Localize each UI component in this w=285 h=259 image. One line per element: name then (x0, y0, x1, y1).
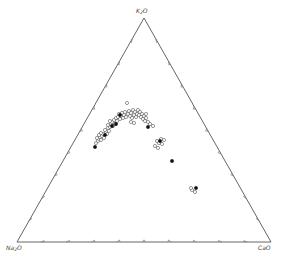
data-point-open (129, 120, 132, 123)
data-point-open (193, 190, 196, 193)
data-point-open (103, 128, 106, 131)
data-point-open (125, 101, 128, 104)
data-point-filled (110, 124, 113, 127)
data-point-open (148, 122, 151, 125)
data-point-open (106, 123, 109, 126)
data-point-open (153, 144, 156, 147)
data-point-open (151, 124, 154, 127)
data-point-open (129, 111, 132, 114)
apex-label-cao: CaO (258, 245, 271, 253)
data-point-open (144, 116, 147, 119)
data-point-filled (93, 145, 96, 148)
axis-ticks (29, 39, 259, 242)
data-points (93, 101, 197, 193)
data-point-open (124, 115, 127, 118)
data-point-filled (170, 159, 173, 162)
data-point-filled (146, 125, 149, 128)
data-point-open (162, 138, 165, 141)
data-point-open (189, 186, 192, 189)
ternary-plot-area (0, 0, 285, 259)
data-point-open (99, 138, 102, 141)
data-point-open (156, 146, 159, 149)
triangle-frame (17, 18, 271, 242)
data-point-filled (118, 113, 121, 116)
data-point-filled (158, 139, 161, 142)
data-point-filled (103, 133, 106, 136)
apex-label-na2o: Na2O (6, 245, 22, 253)
data-point-open (123, 110, 126, 113)
triangle-outline (17, 18, 271, 242)
data-point-filled (114, 122, 117, 125)
apex-label-k2o: K2O (136, 8, 148, 16)
data-point-open (130, 116, 133, 119)
data-point-filled (194, 186, 197, 189)
data-point-open (144, 112, 147, 115)
data-point-open (107, 129, 110, 132)
data-point-open (108, 119, 111, 122)
ternary-diagram: K2O Na2O CaO (0, 0, 285, 259)
data-point-open (99, 131, 102, 134)
data-point-open (160, 142, 163, 145)
